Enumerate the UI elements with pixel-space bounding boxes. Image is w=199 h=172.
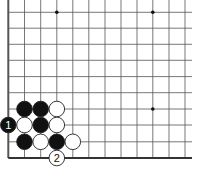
white-stone-icon [49,101,65,117]
white-stone [49,117,65,133]
black-stone-icon [17,101,33,117]
white-stone-icon [33,134,49,150]
star-point-icon [151,11,155,15]
black-stone-move-1: 1 [1,117,17,133]
white-stone-icon [65,134,81,150]
white-stone-icon [17,117,33,133]
black-stone [17,101,33,117]
black-stone [17,134,33,150]
black-stone [33,117,49,133]
black-stone-icon [17,134,33,150]
black-stone-icon [33,117,49,133]
board-grid [8,0,192,158]
black-stone [49,134,65,150]
white-stone-move-2: 2 [49,150,65,166]
star-point-icon [55,11,59,15]
black-stone-icon [33,101,49,117]
move-number-label: 1 [5,119,11,131]
white-stone [49,101,65,117]
black-stone-icon [49,134,65,150]
move-number-label: 2 [54,152,60,164]
star-point-icon [151,107,155,111]
white-stone [65,134,81,150]
black-stone [33,101,49,117]
go-board: 12 [0,0,199,172]
white-stone [33,134,49,150]
white-stone-icon [49,117,65,133]
white-stone [17,117,33,133]
